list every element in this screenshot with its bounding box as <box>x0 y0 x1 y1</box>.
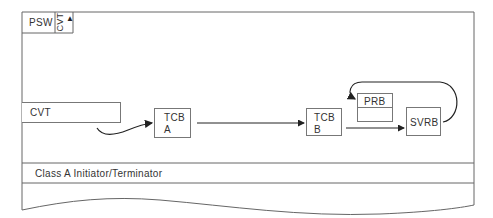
tcb-a-block: TCB A <box>154 108 191 138</box>
class-a-section-label: Class A Initiator/Terminator <box>35 168 162 179</box>
tcb-b-line2: B <box>314 124 321 135</box>
tcb-b-block: TCB B <box>306 108 342 136</box>
prb-divider <box>358 107 392 108</box>
cvt-block-label: CVT <box>30 107 51 118</box>
tcb-b-line1: TCB <box>314 112 335 123</box>
cvt-block: CVT <box>22 102 121 123</box>
psw-label: PSW <box>29 17 53 28</box>
svrb-label: SVRB <box>410 117 438 128</box>
cvt-vertical-label: CVT <box>55 16 66 32</box>
svrb-block: SVRB <box>406 107 441 136</box>
tcb-a-line1: TCB <box>164 112 185 123</box>
prb-block: PRB <box>357 93 393 122</box>
arrow-up-icon: ▲ <box>66 14 74 23</box>
tcb-a-line2: A <box>164 124 171 135</box>
arrow-cvt-to-tcba <box>97 123 152 134</box>
prb-label: PRB <box>364 96 385 107</box>
